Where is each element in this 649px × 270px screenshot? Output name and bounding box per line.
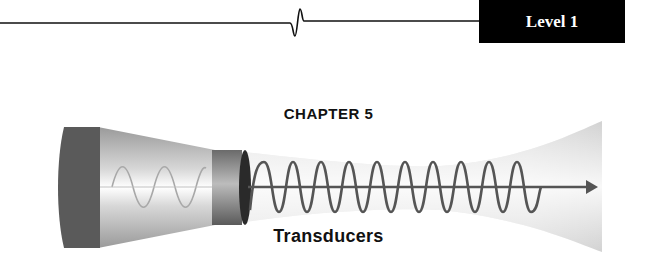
chapter-label: CHAPTER 5	[0, 105, 649, 122]
chapter-title: Transducers	[0, 226, 649, 247]
